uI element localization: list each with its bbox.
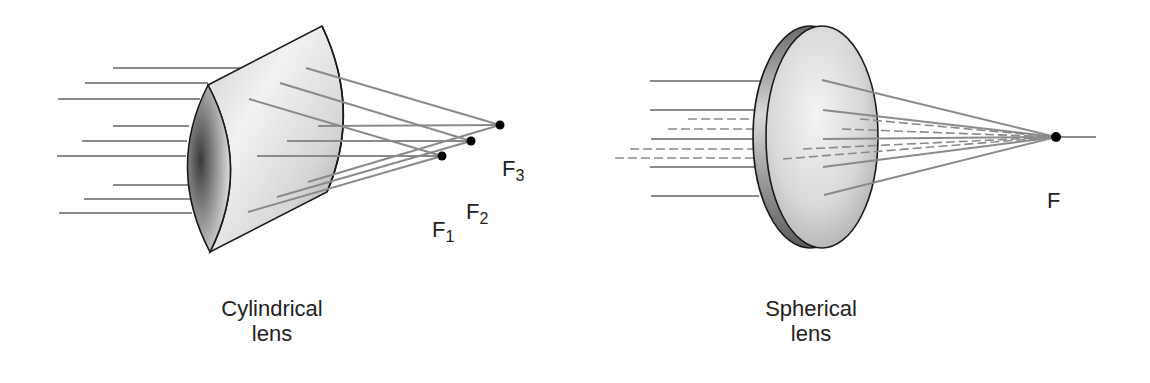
focal-point-f2	[467, 137, 476, 146]
cylindrical-lens-group: F1 F2 F3	[57, 26, 524, 252]
caption-line: Spherical	[711, 296, 911, 321]
spherical-lens-face	[766, 26, 878, 248]
spherical-incoming-rays	[615, 81, 760, 196]
caption-line: lens	[172, 321, 372, 346]
focal-label-f2: F2	[466, 199, 488, 227]
caption-line: lens	[711, 321, 911, 346]
cylindrical-lens-caption: Cylindrical lens	[172, 296, 372, 346]
focal-label-f1: F1	[432, 217, 454, 245]
focal-point-f	[1051, 132, 1061, 142]
focal-point-f3	[496, 121, 505, 130]
focal-point-f1	[438, 152, 447, 161]
focal-label-f3: F3	[502, 156, 524, 184]
focal-label-f: F	[1047, 188, 1060, 213]
spherical-lens-caption: Spherical lens	[711, 296, 911, 346]
caption-line: Cylindrical	[172, 296, 372, 321]
spherical-lens-group: F	[615, 26, 1096, 248]
